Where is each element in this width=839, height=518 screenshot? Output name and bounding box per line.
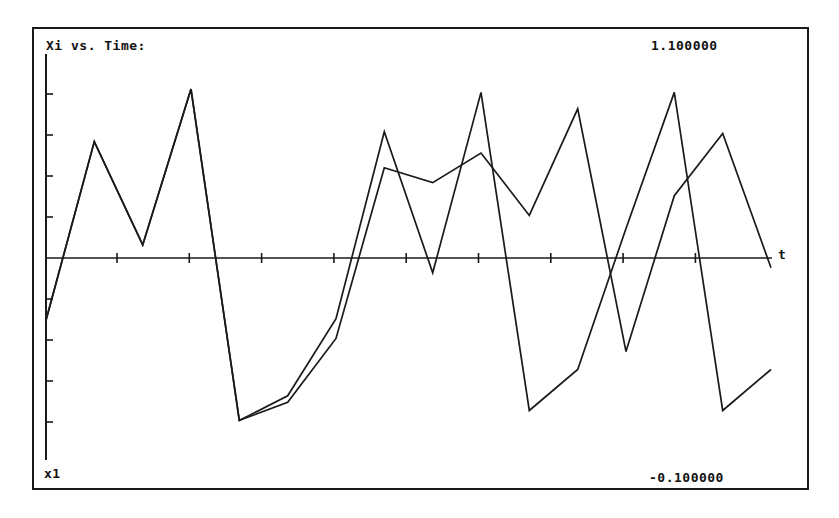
- plot-area: [0, 0, 839, 518]
- line-series-b: [46, 89, 771, 420]
- data-lines: [46, 89, 771, 420]
- line-series-a: [46, 89, 771, 420]
- axes: [46, 54, 772, 460]
